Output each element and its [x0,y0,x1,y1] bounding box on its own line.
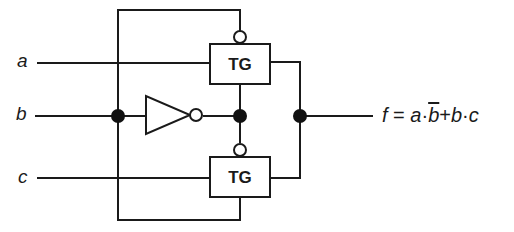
eq-a: a [410,104,421,126]
label-a: a [17,51,28,70]
eq-equals: = [388,104,411,126]
eq-c: c [469,104,479,126]
label-c: c [18,167,28,186]
eq-dot2: · [462,104,469,126]
eq-plus: + [439,104,451,126]
inverter-bubble [190,109,202,121]
junction-b [111,109,125,123]
tg-bottom-bubble [234,144,246,156]
tg-bottom-label: TG [210,169,270,186]
junction-bbar [233,109,247,123]
output-equation: f = a·b+b·c [382,105,479,125]
inverter-triangle [146,96,190,134]
eq-b: b [451,104,462,126]
eq-b-bar: b [428,104,439,126]
tg-top-bubble [234,31,246,43]
tg-top-label: TG [210,56,270,73]
label-b: b [16,104,27,123]
junction-output [293,109,307,123]
